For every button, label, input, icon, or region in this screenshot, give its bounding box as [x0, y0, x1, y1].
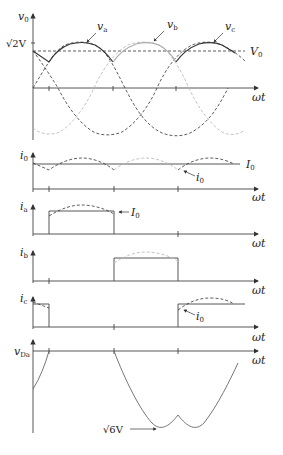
wt-label-1: ωt: [252, 91, 266, 104]
svg-text:ωt: ωt: [252, 191, 266, 204]
v0-axis-label: v0: [18, 10, 29, 24]
panel-ic: ic i0 ωt: [20, 292, 266, 344]
panel-ia: ia I0 ωt: [20, 200, 266, 250]
svg-text:i0: i0: [20, 149, 28, 163]
va-waveform: [33, 42, 228, 136]
svg-text:ωt: ωt: [252, 354, 266, 367]
vDa-waveform: [114, 351, 238, 427]
vc-waveform: [33, 42, 245, 135]
envelope-vb: [113, 43, 176, 62]
svg-text:vDa: vDa: [14, 345, 30, 359]
va-label: va: [97, 20, 107, 34]
panel-ib: ib ωt: [20, 246, 266, 297]
three-phase-rectifier-waveforms: v0 √2V V0 va vb vc ωt i0 I0 i: [0, 0, 283, 455]
svg-text:ic: ic: [20, 292, 28, 306]
sqrt2V-label: √2V: [6, 38, 27, 49]
svg-text:I0: I0: [130, 206, 140, 220]
envelope-va: [33, 43, 113, 62]
svg-text:ib: ib: [20, 246, 29, 260]
svg-text:i0: i0: [196, 171, 204, 185]
svg-text:ωt: ωt: [252, 331, 266, 344]
svg-text:I0: I0: [245, 158, 255, 172]
panel-vDa: vDa √6V ωt: [14, 340, 266, 435]
svg-text:ωt: ωt: [252, 237, 266, 250]
envelope-vc: [176, 43, 235, 62]
V0-label: V0: [250, 45, 262, 59]
svg-text:√6V: √6V: [103, 424, 124, 435]
panel-i0: i0 I0 i0 ωt: [20, 149, 266, 204]
svg-text:ia: ia: [20, 200, 28, 214]
vb-label: vb: [167, 18, 178, 32]
svg-text:i0: i0: [196, 310, 204, 324]
panel-v0: v0 √2V V0 va vb vc ωt: [6, 10, 266, 140]
svg-text:ωt: ωt: [252, 284, 266, 297]
vc-label: vc: [225, 20, 235, 34]
